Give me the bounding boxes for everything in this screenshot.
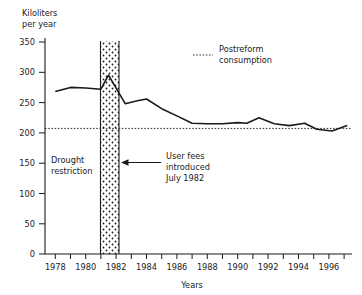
x-tick-label-1986: 1986	[166, 262, 187, 272]
y-tick-label-50: 50	[25, 219, 35, 229]
x-tick-label-1978: 1978	[45, 262, 66, 272]
annotation-drought-restriction: Drought restriction	[51, 155, 93, 176]
drought-restriction-line2: restriction	[51, 166, 93, 176]
legend-label-line2: consumption	[219, 55, 272, 65]
drought-restriction-line1: Drought	[51, 155, 85, 165]
legend-label-line1: Postreform	[219, 44, 263, 54]
x-tick-label-1984: 1984	[136, 262, 157, 272]
y-tick-label-200: 200	[19, 128, 35, 138]
y-tick-label-250: 250	[19, 98, 35, 108]
y-tick-label-0: 0	[30, 249, 35, 259]
legend: Postreform consumption	[193, 44, 272, 65]
user-fees-line3: July 1982	[165, 173, 204, 183]
y-tick-label-100: 100	[19, 189, 35, 199]
annotation-user-fees: User fees introduced July 1982	[121, 151, 210, 183]
y-tick-label-300: 300	[19, 67, 35, 77]
x-axis-ticks	[55, 254, 344, 259]
y-tick-label-350: 350	[19, 37, 35, 47]
y-axis-title-line1: Kiloliters	[22, 8, 57, 18]
x-tick-label-1988: 1988	[197, 262, 218, 272]
y-axis-title-line2: per year	[22, 19, 57, 29]
y-tick-label-150: 150	[19, 158, 35, 168]
user-fees-line2: introduced	[166, 162, 210, 172]
x-tick-label-1996: 1996	[318, 262, 339, 272]
x-tick-label-1994: 1994	[288, 262, 309, 272]
band-fill	[101, 41, 120, 254]
x-tick-label-1990: 1990	[227, 262, 248, 272]
chart-container: Kiloliters per year	[0, 0, 362, 295]
x-tick-label-1980: 1980	[75, 262, 96, 272]
x-tick-label-1992: 1992	[258, 262, 279, 272]
y-axis-ticks	[39, 42, 45, 254]
x-axis-title: Years	[180, 280, 203, 290]
x-tick-label-1982: 1982	[106, 262, 127, 272]
series-water-consumption	[55, 75, 347, 131]
user-fees-arrow-head-icon	[121, 159, 129, 165]
consumption-line-chart: Kiloliters per year	[0, 0, 362, 295]
user-fees-line1: User fees	[166, 151, 205, 161]
drought-restriction-band	[101, 41, 120, 254]
